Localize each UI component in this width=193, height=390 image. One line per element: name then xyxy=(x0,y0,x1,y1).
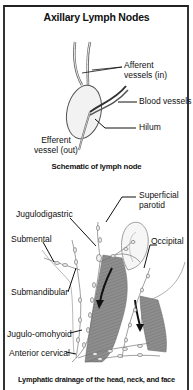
label-superficial-parotid: Superficial parotid xyxy=(139,191,179,210)
label-superficial-parotid-line2: parotid xyxy=(139,201,179,211)
label-anterior-cervical: Anterior cervical xyxy=(9,349,70,359)
label-submandibular: Submandibular xyxy=(11,288,68,298)
label-submental: Submental xyxy=(11,235,52,245)
head-neck-caption: Lymphatic drainage of the head, neck, an… xyxy=(0,375,193,384)
label-jugulodigastric: Jugulodigastric xyxy=(16,210,73,220)
label-occipital: Occipital xyxy=(151,237,184,247)
label-jugulo-omohyoid: Jugulo-omohyoid xyxy=(7,330,72,340)
